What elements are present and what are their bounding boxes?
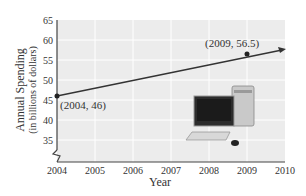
svg-text:65: 65 xyxy=(43,15,53,26)
svg-text:50: 50 xyxy=(43,75,53,86)
y-axis-title: Annual Spending xyxy=(13,48,27,132)
svg-text:2004: 2004 xyxy=(47,165,67,176)
data-point-2009 xyxy=(245,52,250,57)
svg-text:2009: 2009 xyxy=(237,165,257,176)
svg-text:40: 40 xyxy=(43,115,53,126)
svg-text:2005: 2005 xyxy=(85,165,105,176)
x-axis-title: Year xyxy=(149,175,171,189)
svg-text:2010: 2010 xyxy=(275,165,295,176)
svg-text:60: 60 xyxy=(43,35,53,46)
svg-text:2006: 2006 xyxy=(123,165,143,176)
y-tick-labels: 65 60 55 50 45 40 35 xyxy=(43,15,53,146)
line-chart: 65 60 55 50 45 40 35 2004 2005 2006 2007… xyxy=(0,0,306,196)
y-axis-subtitle: (in billions of dollars) xyxy=(27,46,39,134)
svg-text:55: 55 xyxy=(43,55,53,66)
svg-text:35: 35 xyxy=(43,135,53,146)
data-point-2004 xyxy=(55,94,60,99)
svg-text:45: 45 xyxy=(43,95,53,106)
svg-text:2008: 2008 xyxy=(199,165,219,176)
annotation-2009: (2009, 56.5) xyxy=(205,37,259,50)
annotation-2004: (2004, 46) xyxy=(60,99,106,112)
